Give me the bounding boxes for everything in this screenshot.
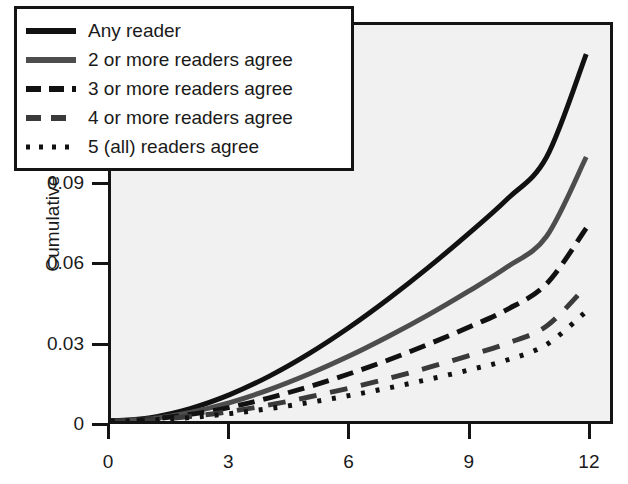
legend-line-swatch [25,51,77,69]
series-curve [111,228,586,421]
legend-line-swatch [25,138,77,156]
legend-label: Any reader [88,21,181,40]
legend-label: 2 or more readers agree [88,50,293,69]
y-tick-mark [92,182,108,185]
legend-line-swatch [25,80,77,98]
legend-item: 5 (all) readers agree [25,132,341,161]
legend-label: 5 (all) readers agree [88,137,259,156]
x-tick-label: 9 [439,452,499,471]
y-tick-label: 0.06 [22,253,84,272]
x-axis-tick-labels: 036912 [0,452,628,476]
legend-line-swatch [25,109,77,127]
y-tick-mark [92,262,108,265]
chart-figure: Cumulative risk 00.030.060.090.120.15 03… [0,0,628,484]
y-tick-mark [92,343,108,346]
x-tick-mark [347,424,350,439]
x-tick-mark [227,424,230,439]
legend-item: 2 or more readers agree [25,45,341,74]
y-tick-label: 0.03 [22,334,84,353]
legend-label: 3 or more readers agree [88,79,293,98]
series-curve [111,157,586,421]
legend-item: Any reader [25,16,341,45]
x-tick-mark [588,424,591,439]
legend-line-swatch [25,22,77,40]
x-tick-label: 3 [198,452,258,471]
x-tick-mark [107,424,110,439]
x-tick-label: 12 [559,452,619,471]
legend-label: 4 or more readers agree [88,108,293,127]
x-tick-mark [468,424,471,439]
legend-item: 3 or more readers agree [25,74,341,103]
y-tick-label: 0 [22,414,84,433]
y-tick-label: 0.09 [22,173,84,192]
chart-legend: Any reader2 or more readers agree3 or mo… [14,6,354,171]
legend-item: 4 or more readers agree [25,103,341,132]
y-tick-mark [92,423,108,426]
x-tick-label: 0 [78,452,138,471]
x-tick-label: 6 [318,452,378,471]
